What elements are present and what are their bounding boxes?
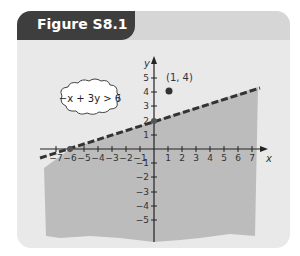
intercept-point <box>67 146 73 152</box>
svg-text:−6: −6 <box>63 153 77 163</box>
svg-text:−4: −4 <box>91 153 105 163</box>
test-point-label: (1, 4) <box>166 72 193 83</box>
y-axis-label: y <box>143 58 151 69</box>
y-axis-arrow-icon <box>151 56 157 64</box>
chart-plot: −7−6 −5−4 −3−2 −11 23 45 67 54 32 1−1 −2… <box>0 0 300 256</box>
svg-text:−2: −2 <box>136 172 149 182</box>
svg-text:4: 4 <box>143 87 149 97</box>
svg-text:3: 3 <box>143 101 149 111</box>
x-axis-arrow-icon <box>260 146 268 152</box>
svg-text:−1: −1 <box>136 158 149 168</box>
svg-text:3: 3 <box>193 153 199 163</box>
svg-text:−3: −3 <box>136 187 149 197</box>
svg-text:−4: −4 <box>136 201 150 211</box>
svg-text:4: 4 <box>207 153 213 163</box>
svg-text:6: 6 <box>235 153 241 163</box>
svg-text:1: 1 <box>143 130 149 140</box>
svg-text:7: 7 <box>249 153 255 163</box>
intercept-point <box>151 118 157 124</box>
test-point <box>166 88 173 95</box>
svg-text:5: 5 <box>221 153 227 163</box>
svg-text:5: 5 <box>143 73 149 83</box>
x-axis-label: x <box>265 153 272 164</box>
inequality-callout: −x + 3y > 6 <box>59 79 121 114</box>
svg-text:−2: −2 <box>119 153 132 163</box>
svg-text:2: 2 <box>179 153 185 163</box>
svg-text:1: 1 <box>165 153 171 163</box>
svg-text:−x + 3y > 6: −x + 3y > 6 <box>59 93 121 104</box>
svg-text:−3: −3 <box>105 153 118 163</box>
svg-text:−5: −5 <box>77 153 90 163</box>
svg-text:−5: −5 <box>136 215 149 225</box>
